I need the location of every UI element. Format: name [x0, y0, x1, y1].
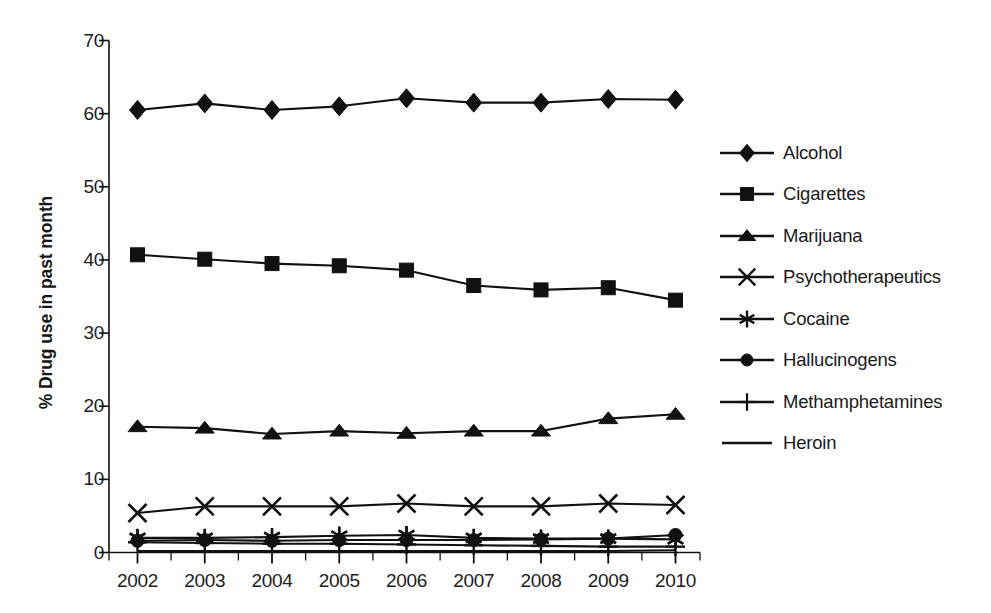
triangle-marker: [666, 407, 685, 419]
legend-item-label: Cigarettes: [778, 184, 865, 204]
legend-item-label: Alcohol: [778, 143, 842, 163]
plus-marker: [195, 533, 214, 552]
series-alcohol: [130, 89, 684, 120]
legend-item[interactable]: Alcohol: [716, 132, 988, 174]
legend-item[interactable]: Psychotherapeutics: [716, 257, 988, 299]
series-layer: [128, 89, 685, 556]
circle-marker: [716, 345, 778, 375]
legend-item-label: Marijuana: [778, 226, 862, 246]
legend-item[interactable]: Heroin: [716, 423, 988, 465]
square-marker: [669, 293, 683, 307]
circle-marker: [741, 354, 753, 366]
square-marker: [332, 259, 346, 273]
diamond-marker: [668, 90, 684, 109]
diamond-marker: [533, 93, 549, 112]
chart-legend: AlcoholCigarettesMarijuanaPsychotherapeu…: [716, 132, 988, 464]
diamond-marker: [331, 97, 347, 116]
legend-item[interactable]: Methamphetamines: [716, 381, 988, 423]
legend-item-label: Methamphetamines: [778, 392, 942, 412]
legend-item-label: Cocaine: [778, 309, 849, 329]
chart-figure: % Drug use in past month 706050403020100…: [0, 0, 991, 613]
legend-item[interactable]: Cocaine: [716, 298, 988, 340]
legend-item[interactable]: Marijuana: [716, 215, 988, 257]
diamond-marker: [130, 100, 146, 119]
square-marker: [265, 257, 279, 271]
square-marker: [601, 281, 615, 295]
series-marijuana: [128, 407, 685, 439]
asterisk-marker: [716, 304, 778, 334]
diamond-marker: [600, 90, 616, 109]
diamond-marker: [197, 94, 213, 113]
square-marker: [400, 263, 414, 277]
diamond-marker: [399, 89, 415, 108]
series-cigarettes: [131, 248, 683, 307]
plus-marker: [128, 533, 147, 552]
legend-item-label: Heroin: [778, 433, 836, 453]
triangle-marker: [716, 221, 778, 251]
series-heroin: [138, 550, 676, 551]
legend-item-label: Hallucinogens: [778, 350, 897, 370]
square-marker: [741, 188, 754, 201]
square-marker: [198, 252, 212, 266]
triangle-marker: [128, 420, 147, 432]
diamond-marker: [466, 93, 482, 112]
cross-marker: [716, 262, 778, 292]
legend-item-label: Psychotherapeutics: [778, 267, 941, 287]
diamond-marker: [740, 144, 755, 161]
axes-layer: [99, 41, 700, 564]
line-marker: [716, 428, 778, 458]
square-marker: [131, 248, 145, 262]
plus-marker: [738, 393, 755, 410]
diamond-marker: [716, 138, 778, 168]
square-marker: [534, 283, 548, 297]
square-marker: [716, 179, 778, 209]
triangle-marker: [330, 424, 349, 436]
series-psychotherapeutics: [129, 494, 685, 522]
legend-item[interactable]: Hallucinogens: [716, 340, 988, 382]
legend-item[interactable]: Cigarettes: [716, 174, 988, 216]
plus-marker: [716, 387, 778, 417]
diamond-marker: [264, 100, 280, 119]
square-marker: [467, 279, 481, 293]
